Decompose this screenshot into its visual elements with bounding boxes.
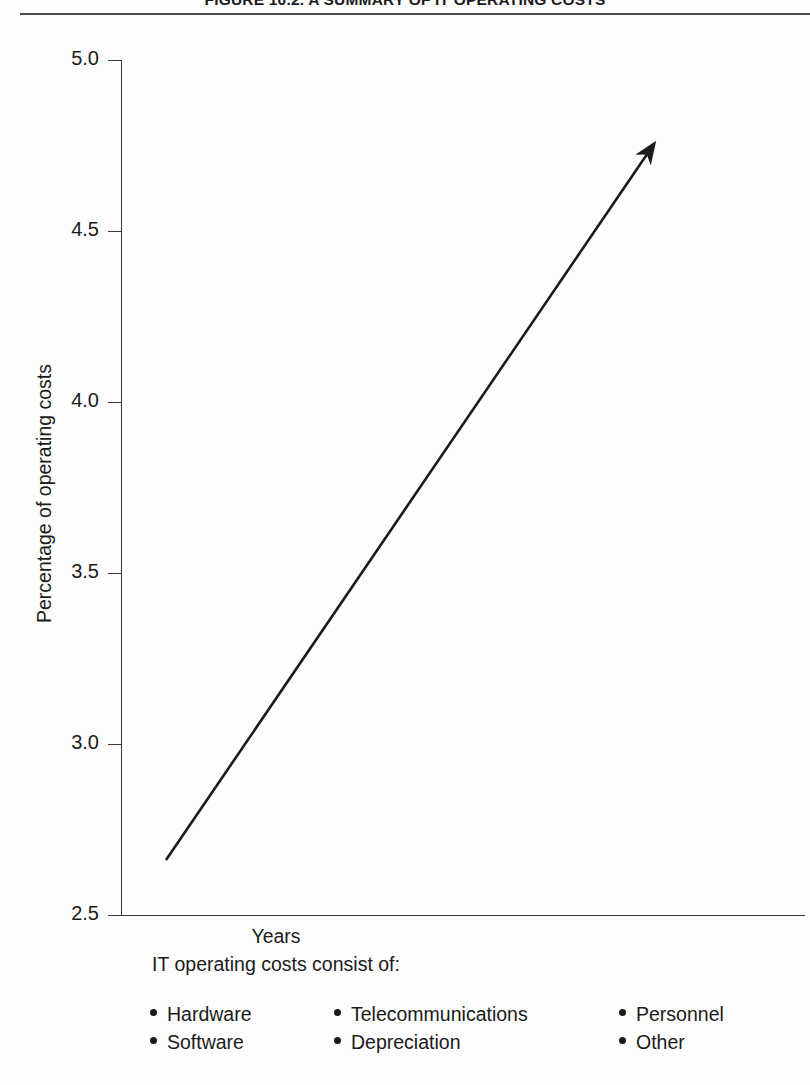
bullet-icon [619,1009,626,1016]
chart-plot-area: 5.0 4.5 4.0 3.5 3.0 2.5 Percentage of op… [0,0,810,1085]
legend-item-label: Hardware [167,1003,252,1026]
legend-item-label: Depreciation [351,1031,460,1054]
legend-heading: IT operating costs consist of: [121,953,431,976]
legend-item-hardware: Hardware [150,1003,334,1026]
x-axis-title: Years [121,925,431,948]
x-axis-line [121,915,805,916]
legend: Hardware Telecommunications Personnel So… [150,1000,790,1056]
legend-item-label: Personnel [636,1003,724,1026]
legend-item-other: Other [619,1031,789,1054]
legend-item-label: Other [636,1031,685,1054]
legend-item-label: Telecommunications [351,1003,528,1026]
y-tick-label: 2.5 [29,902,99,925]
legend-item-telecommunications: Telecommunications [334,1003,619,1026]
legend-item-label: Software [167,1031,244,1054]
legend-item-software: Software [150,1031,334,1054]
legend-item-personnel: Personnel [619,1003,789,1026]
y-axis-title: Percentage of operating costs [33,234,56,754]
legend-row: Hardware Telecommunications Personnel [150,1000,790,1028]
bullet-icon [334,1009,341,1016]
bullet-icon [150,1037,157,1044]
bullet-icon [334,1037,341,1044]
y-axis-line [121,60,122,916]
y-tick-label: 5.0 [29,47,99,70]
legend-row: Software Depreciation Other [150,1028,790,1056]
figure-page: FIGURE 10.2. A SUMMARY OF IT OPERATING C… [0,0,810,1085]
legend-item-depreciation: Depreciation [334,1031,619,1054]
bullet-icon [150,1009,157,1016]
bullet-icon [619,1037,626,1044]
